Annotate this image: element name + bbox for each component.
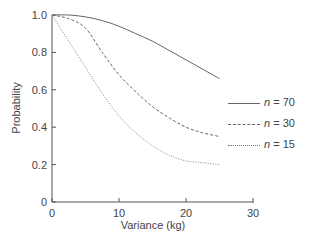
legend: n = 70 n = 30 n = 15 — [226, 95, 309, 158]
dashed-line-swatch-icon — [228, 124, 260, 125]
y-tick-label: 0.6 — [32, 84, 47, 96]
series-line-n70 — [52, 15, 220, 79]
legend-label-n15: = 15 — [270, 138, 295, 150]
x-tick-label: 10 — [113, 207, 125, 219]
y-axis-label: Probability — [10, 82, 22, 134]
x-tick-label: 20 — [180, 207, 192, 219]
solid-line-swatch-icon — [228, 103, 260, 104]
dotted-line-swatch-icon — [228, 145, 260, 146]
y-tick-label: 0 — [41, 196, 47, 208]
y-tick-label: 0.2 — [32, 159, 47, 171]
x-tick-label: 0 — [49, 207, 55, 219]
legend-label-n30: = 30 — [270, 117, 295, 129]
legend-item-n15: n = 15 — [226, 137, 309, 158]
axes — [52, 15, 254, 202]
series-line-n15 — [52, 15, 220, 165]
x-axis-label: Variance (kg) — [121, 219, 186, 231]
y-tick-label: 0.8 — [32, 46, 47, 58]
series-lines — [52, 15, 220, 165]
x-ticks: 0102030 — [49, 198, 259, 219]
y-tick-label: 1.0 — [32, 9, 47, 21]
legend-label-n70: = 70 — [270, 96, 295, 108]
legend-item-n70: n = 70 — [226, 95, 309, 116]
y-tick-label: 0.4 — [32, 121, 47, 133]
x-tick-label: 30 — [247, 207, 259, 219]
legend-item-n30: n = 30 — [226, 116, 309, 137]
